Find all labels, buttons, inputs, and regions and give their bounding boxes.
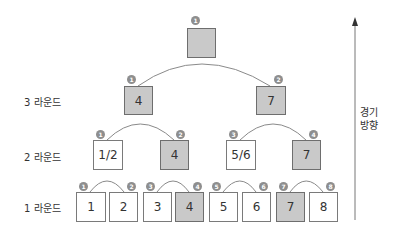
r2-badge-1: 1 xyxy=(96,130,105,139)
r2-box-1: 1/2 xyxy=(93,140,123,170)
r1-box-6: 6 xyxy=(242,192,271,222)
round-2-label: 2 라운드 xyxy=(24,149,61,164)
r3-box-1: 4 xyxy=(124,86,153,115)
r1-box-2: 2 xyxy=(109,192,138,222)
r1-box-5: 5 xyxy=(209,192,238,222)
r1-badge-3: 3 xyxy=(146,182,155,191)
round-3-label: 3 라운드 xyxy=(24,94,61,109)
r2-box-4: 7 xyxy=(292,140,321,170)
r1-box-8: 8 xyxy=(309,192,338,222)
r2-badge-3: 3 xyxy=(229,130,238,139)
r1-badge-2: 2 xyxy=(127,182,136,191)
arrow-head-icon xyxy=(352,17,358,26)
round-1-label: 1 라운드 xyxy=(24,200,61,215)
final-badge: 1 xyxy=(191,16,200,25)
r1-box-1: 1 xyxy=(76,192,106,222)
r2-badge-4: 4 xyxy=(309,130,318,139)
r1-box-4: 4 xyxy=(175,192,204,222)
r1-badge-1: 1 xyxy=(79,182,88,191)
r2-badge-2: 2 xyxy=(176,130,185,139)
r1-badge-6: 6 xyxy=(259,182,268,191)
r1-badge-4: 4 xyxy=(193,182,202,191)
r3-box-2: 7 xyxy=(256,86,286,115)
r1-badge-8: 8 xyxy=(326,182,335,191)
r1-badge-7: 7 xyxy=(279,182,288,191)
r1-box-3: 3 xyxy=(143,192,172,222)
r1-badge-5: 5 xyxy=(212,182,221,191)
r3-badge-2: 2 xyxy=(274,75,283,84)
direction-label: 경기 방향 xyxy=(360,106,378,132)
direction-line1: 경기 xyxy=(360,106,378,119)
direction-line2: 방향 xyxy=(360,119,378,132)
r1-box-7: 7 xyxy=(276,192,305,222)
final-box xyxy=(187,28,216,58)
r2-box-2: 4 xyxy=(160,140,189,170)
r3-badge-1: 1 xyxy=(127,75,136,84)
r2-box-3: 5/6 xyxy=(226,140,256,170)
